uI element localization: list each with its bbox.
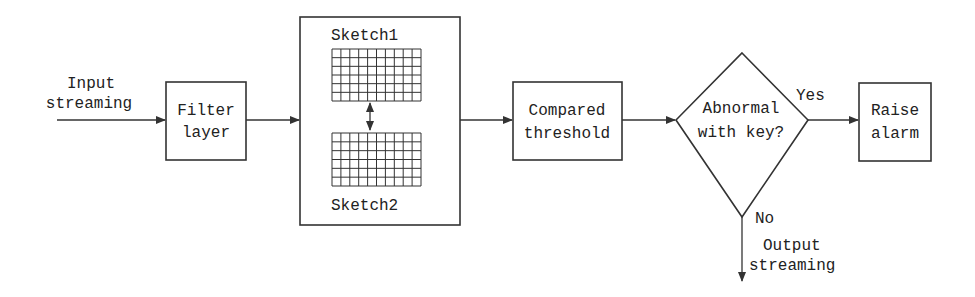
yes-label: Yes — [796, 87, 825, 105]
no-label: No — [755, 210, 774, 228]
filter-layer-box — [166, 82, 246, 160]
compare-label-line2: threshold — [524, 125, 610, 143]
filter-layer-node: Filter layer — [166, 82, 246, 160]
alarm-label-line2: alarm — [871, 125, 919, 143]
decision-node: Abnormal with key? — [676, 53, 808, 217]
filter-label-line1: Filter — [177, 102, 235, 120]
filter-label-line2: layer — [182, 124, 230, 142]
sketch2-label: Sketch2 — [331, 197, 398, 215]
flow-diagram: Input streaming Filter layer Sketch1 Ske… — [0, 0, 975, 297]
input-streaming-node: Input streaming — [46, 75, 165, 120]
decision-label-line1: Abnormal — [703, 100, 780, 118]
output-label-line1: Output — [763, 237, 821, 255]
compared-threshold-node: Compared threshold — [513, 82, 622, 160]
input-label-line1: Input — [67, 75, 115, 93]
decision-label-line2: with key? — [698, 124, 784, 142]
input-label-line2: streaming — [46, 95, 132, 113]
raise-alarm-box — [859, 83, 931, 161]
sketch1-label: Sketch1 — [331, 27, 398, 45]
compared-threshold-box — [513, 82, 622, 160]
compare-label-line1: Compared — [529, 102, 606, 120]
sketch-group-box — [300, 17, 460, 225]
sketch-group-node: Sketch1 Sketch2 — [300, 17, 460, 225]
output-label-line2: streaming — [749, 257, 835, 275]
raise-alarm-node: Raise alarm — [859, 83, 931, 161]
alarm-label-line1: Raise — [871, 102, 919, 120]
